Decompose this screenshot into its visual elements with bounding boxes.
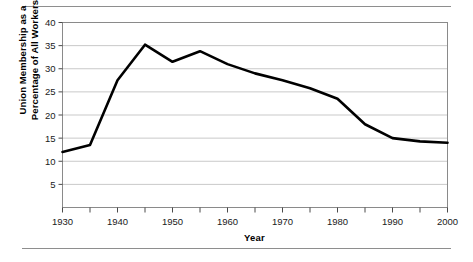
svg-text:1960: 1960 bbox=[217, 216, 238, 227]
svg-text:35: 35 bbox=[45, 40, 56, 51]
svg-text:1930: 1930 bbox=[52, 216, 73, 227]
y-axis-title-line1: Union Membership as a bbox=[17, 0, 29, 155]
line-chart: 510152025303540 193019401950196019701980… bbox=[0, 0, 473, 262]
svg-text:1990: 1990 bbox=[382, 216, 403, 227]
x-axis-tick-labels: 19301940195019601970198019902000 bbox=[52, 216, 458, 227]
svg-text:40: 40 bbox=[45, 17, 56, 28]
y-axis-ticks bbox=[59, 23, 63, 185]
y-axis-title: Union Membership as a Percentage of All … bbox=[17, 0, 41, 155]
svg-text:30: 30 bbox=[45, 63, 56, 74]
x-axis-title: Year bbox=[62, 232, 447, 243]
svg-text:10: 10 bbox=[45, 156, 56, 167]
figure-container: 510152025303540 193019401950196019701980… bbox=[0, 0, 473, 262]
x-axis-minor-ticks bbox=[90, 208, 420, 213]
y-axis-tick-labels: 510152025303540 bbox=[45, 17, 56, 190]
y-axis-title-line2: Percentage of All Workers bbox=[29, 0, 41, 155]
grid-lines bbox=[63, 23, 448, 185]
svg-text:1950: 1950 bbox=[162, 216, 183, 227]
svg-text:15: 15 bbox=[45, 133, 56, 144]
svg-text:20: 20 bbox=[45, 110, 56, 121]
svg-text:5: 5 bbox=[50, 179, 55, 190]
svg-text:1970: 1970 bbox=[272, 216, 293, 227]
svg-text:2000: 2000 bbox=[437, 216, 458, 227]
svg-text:1980: 1980 bbox=[327, 216, 348, 227]
data-series-union-membership bbox=[63, 45, 448, 152]
svg-text:1940: 1940 bbox=[107, 216, 128, 227]
svg-text:25: 25 bbox=[45, 86, 56, 97]
